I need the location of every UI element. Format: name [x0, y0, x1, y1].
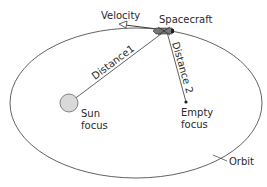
- distance1-line: [69, 31, 165, 103]
- empty-focus-label-line1: Empty: [181, 107, 213, 118]
- orbit-ellipse: [10, 28, 262, 178]
- distance2-label: Distance 2: [170, 41, 195, 95]
- empty-focus-label-line2: focus: [181, 119, 208, 130]
- distance1-label: Distance1: [90, 43, 137, 82]
- empty-focus-dot: [184, 100, 187, 103]
- sun-focus-icon: [60, 94, 78, 112]
- orbit-diagram: Velocity Spacecraft Distance1 Distance 2…: [0, 0, 267, 187]
- velocity-label: Velocity: [101, 10, 140, 21]
- sun-focus-label-line1: Sun: [81, 108, 100, 119]
- orbit-label: Orbit: [229, 156, 254, 167]
- spacecraft-label: Spacecraft: [159, 14, 213, 25]
- sun-focus-label-line2: focus: [81, 120, 108, 131]
- spacecraft-icon: [153, 27, 174, 35]
